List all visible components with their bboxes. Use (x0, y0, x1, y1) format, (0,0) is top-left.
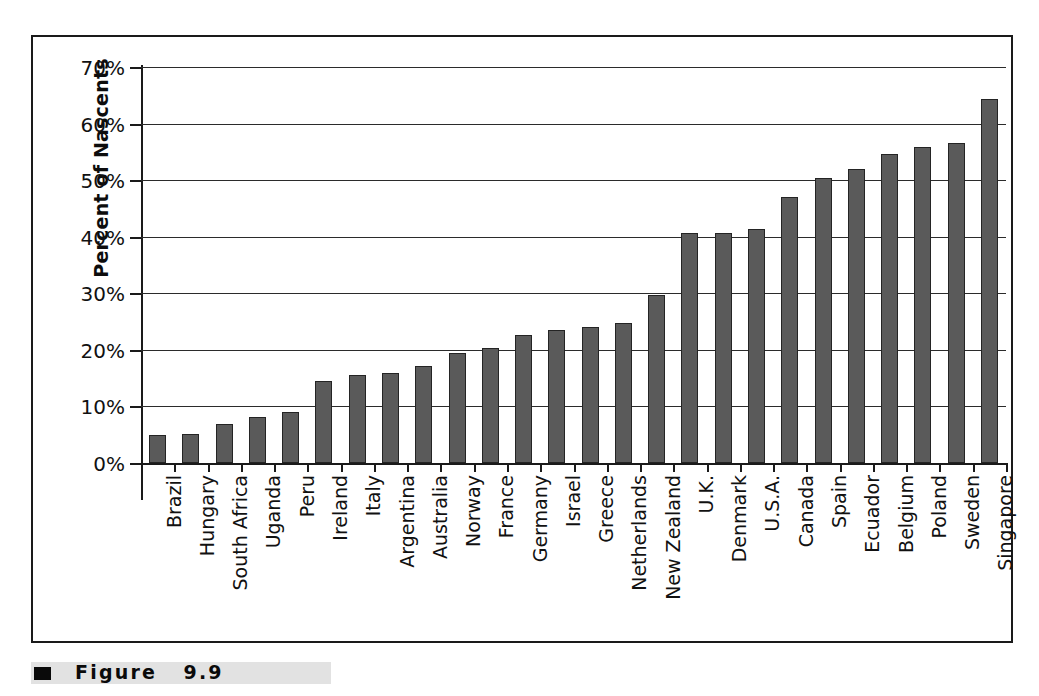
bar (282, 412, 299, 463)
x-axis-label: U.S.A. (763, 475, 782, 645)
x-axis-tick (307, 463, 309, 472)
x-axis-tick (407, 463, 409, 472)
y-axis-tick (130, 350, 141, 352)
x-axis-label: Poland (930, 475, 949, 645)
x-axis-label: Norway (464, 475, 483, 645)
bar (182, 434, 199, 463)
y-axis-tick (130, 406, 141, 408)
bar (715, 233, 732, 463)
bar (615, 323, 632, 463)
y-axis-tick (130, 463, 141, 465)
bar (449, 353, 466, 463)
x-axis-label: Germany (531, 475, 550, 645)
x-axis-label: U.K. (697, 475, 716, 645)
gridline (141, 67, 1006, 68)
bar (548, 330, 565, 463)
y-axis-tick-label-text: 40% (81, 226, 125, 250)
y-axis-tick-label-text: 50% (81, 169, 125, 193)
figure-frame: Percent of Nascents 0%10%20%30%40%50%60%… (31, 35, 1013, 643)
x-axis-tick (1006, 463, 1008, 472)
x-axis-label: Ecuador (863, 475, 882, 645)
x-axis-tick (707, 463, 709, 472)
x-axis-label: Greece (597, 475, 616, 645)
x-axis-label: France (497, 475, 516, 645)
bar (815, 178, 832, 463)
bar (515, 335, 532, 463)
y-axis-tick (130, 293, 141, 295)
y-axis-tick-label-text: 60% (81, 113, 125, 137)
y-axis-tick-label-text: 30% (81, 282, 125, 306)
x-axis-tick (507, 463, 509, 472)
x-axis-label: Spain (830, 475, 849, 645)
bar (881, 154, 898, 463)
x-axis-tick (341, 463, 343, 472)
y-axis-tick (130, 180, 141, 182)
x-axis-tick (939, 463, 941, 472)
x-axis-tick (440, 463, 442, 472)
bar (315, 381, 332, 463)
gridline (141, 237, 1006, 238)
y-axis-tick-label-text: 70% (81, 56, 125, 80)
bar (648, 295, 665, 463)
x-axis-label: Australia (431, 475, 450, 645)
bar (216, 424, 233, 463)
x-axis-label: Netherlands (630, 475, 649, 645)
y-axis-tick (130, 237, 141, 239)
x-axis-tick (906, 463, 908, 472)
y-axis-tick (130, 124, 141, 126)
x-axis-label: Uganda (264, 475, 283, 645)
bar (482, 348, 499, 463)
bar (415, 366, 432, 463)
x-axis-tick (374, 463, 376, 472)
x-axis-tick (973, 463, 975, 472)
bar (981, 99, 998, 463)
x-axis-label: Ireland (331, 475, 350, 645)
caption-number: 9.9 (184, 661, 224, 683)
gridline (141, 293, 1006, 294)
gridline (141, 124, 1006, 125)
bar (848, 169, 865, 463)
plot-area (141, 67, 1006, 463)
y-axis-tick-label-text: 20% (81, 339, 125, 363)
x-axis-label: Israel (564, 475, 583, 645)
x-axis-labels: BrazilHungarySouth AfricaUgandaPeruIrela… (141, 475, 1006, 635)
x-axis-tick (574, 463, 576, 472)
bar (349, 375, 366, 463)
x-axis-tick (274, 463, 276, 472)
x-axis-label: New Zealand (664, 475, 683, 645)
bar (382, 373, 399, 463)
x-axis-tick (740, 463, 742, 472)
x-axis-tick (607, 463, 609, 472)
x-axis-tick (640, 463, 642, 472)
x-axis-tick (474, 463, 476, 472)
y-axis-tick-label-text: 0% (93, 452, 125, 476)
x-axis-tick (174, 463, 176, 472)
bar (249, 417, 266, 463)
x-axis-tick (141, 463, 143, 472)
bar (948, 143, 965, 463)
caption-text: Figure 9.9 (75, 661, 224, 683)
x-axis-label: Argentina (398, 475, 417, 645)
bar (914, 147, 931, 463)
x-axis-tick (873, 463, 875, 472)
x-axis-label: Italy (364, 475, 383, 645)
x-axis-tick (208, 463, 210, 472)
x-axis-tick (773, 463, 775, 472)
y-axis-tick-label-text: 10% (81, 395, 125, 419)
bar (748, 229, 765, 463)
x-axis-label: Peru (298, 475, 317, 645)
x-axis-label: Hungary (198, 475, 217, 645)
x-axis-ticks (141, 463, 1006, 473)
bar (781, 197, 798, 463)
x-axis-label: Sweden (963, 475, 982, 645)
bar (681, 233, 698, 463)
bar (149, 435, 166, 463)
x-axis-label: Singapore (996, 475, 1015, 645)
x-axis-label: Canada (797, 475, 816, 645)
x-axis-tick (241, 463, 243, 472)
gridline (141, 350, 1006, 351)
x-axis-tick (806, 463, 808, 472)
gridline (141, 180, 1006, 181)
gridline (141, 406, 1006, 407)
x-axis-label: Brazil (165, 475, 184, 645)
